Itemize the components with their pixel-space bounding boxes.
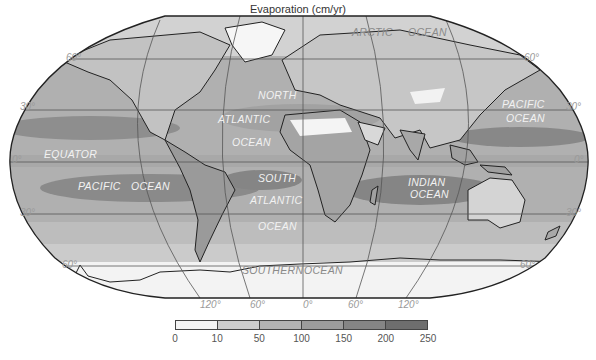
ocean-label: OCEAN [506, 112, 545, 124]
latitude-label: 0° [574, 154, 584, 165]
legend-tick: 10 [212, 333, 223, 344]
ocean-label: SOUTH [258, 172, 296, 184]
legend-swatch-50-100 [260, 321, 302, 329]
latitude-label: 60° [520, 259, 535, 270]
latitude-label: 0° [12, 154, 22, 165]
legend-tick: 50 [254, 333, 265, 344]
legend-tick: 200 [377, 333, 394, 344]
legend-tick: 0 [172, 333, 178, 344]
ocean-label: ATLANTIC [217, 113, 270, 125]
latitude-label: 30° [20, 207, 35, 218]
latitude-label: 60° [62, 259, 77, 270]
longitude-label: 120° [398, 299, 419, 310]
ocean-label: ATLANTIC [249, 194, 302, 206]
legend-ticks: 0 10 50 100 150 200 250 [175, 333, 428, 347]
longitude-label: 0° [303, 299, 313, 310]
longitude-label: 60° [250, 299, 265, 310]
ocean-label: ARCTIC [351, 26, 393, 38]
color-legend [175, 320, 428, 330]
ocean-label: SOUTHERN [242, 264, 303, 276]
latitude-label: 30° [20, 101, 35, 112]
legend-swatch-100-150 [302, 321, 344, 329]
ocean-label: OCEAN [408, 26, 447, 38]
ocean-label: OCEAN [258, 220, 297, 232]
latitude-label: 60° [524, 52, 539, 63]
longitude-label: 120° [200, 299, 221, 310]
legend-tick: 250 [420, 333, 437, 344]
legend-tick: 150 [335, 333, 352, 344]
latitude-label: 30° [566, 207, 581, 218]
evaporation-world-map: ARCTIC OCEAN NORTH ATLANTIC OCEAN PACIFI… [0, 0, 596, 360]
ocean-label: OCEAN [232, 136, 271, 148]
longitude-label: 60° [348, 299, 363, 310]
ocean-label: PACIFIC [502, 98, 545, 110]
legend-swatch-0-10 [176, 321, 218, 329]
ocean-label: PACIFIC [78, 180, 121, 192]
ocean-label: OCEAN [131, 180, 170, 192]
legend-tick: 100 [293, 333, 310, 344]
longitude-labels: 120° 60° 0° 60° 120° [200, 299, 419, 310]
ocean-label: OCEAN [304, 264, 343, 276]
legend-swatch-200-250 [386, 321, 427, 329]
ocean-label: OCEAN [410, 188, 449, 200]
latitude-label: 60° [66, 52, 81, 63]
ocean-label: EQUATOR [44, 148, 97, 160]
ocean-label: INDIAN [408, 176, 446, 188]
legend-swatch-10-50 [218, 321, 260, 329]
latitude-label: 30° [566, 101, 581, 112]
ocean-label: NORTH [258, 89, 297, 101]
legend-swatch-150-200 [344, 321, 386, 329]
